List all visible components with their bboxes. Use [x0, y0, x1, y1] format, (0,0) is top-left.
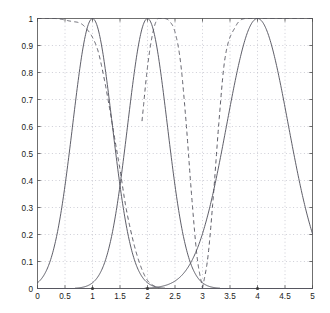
- x-axis-tick-label: 4: [255, 292, 260, 301]
- y-axis-tick-label: 0.6: [22, 123, 34, 132]
- x-axis-tick-label: 0: [35, 292, 40, 301]
- x-axis-tick-label: 3: [200, 292, 205, 301]
- x-axis-tick-label: 4.5: [279, 292, 291, 301]
- y-axis-tick-label: 0.7: [22, 96, 34, 105]
- grid-lines: [38, 19, 313, 289]
- y-axis-tick-label: 0.8: [22, 69, 34, 78]
- curve-dashed-mid-bump: [142, 19, 203, 289]
- x-axis-tick-label: 3.5: [224, 292, 236, 301]
- x-axis-tick-label: 1: [90, 292, 95, 301]
- x-axis-tick-label: 2.5: [169, 292, 181, 301]
- x-axis-tick-label: 2: [145, 292, 150, 301]
- y-axis-tick-label: 0.9: [22, 42, 34, 51]
- y-axis-tick-label: 0.3: [22, 204, 34, 213]
- data-point-marker: [91, 287, 94, 290]
- y-axis-tick-label: 0.1: [22, 258, 34, 267]
- data-point-marker: [146, 287, 149, 290]
- y-axis-tick-label: 0.5: [22, 150, 34, 159]
- y-axis-tick-label: 1: [28, 15, 33, 24]
- x-axis-tick-label: 0.5: [59, 292, 71, 301]
- tick-labels: 00.511.522.533.544.5500.10.20.30.40.50.6…: [22, 15, 316, 302]
- x-axis-tick-label: 1.5: [114, 292, 126, 301]
- chart-figure: 00.511.522.533.544.5500.10.20.30.40.50.6…: [0, 0, 330, 313]
- y-axis-tick-label: 0.4: [22, 177, 34, 186]
- x-axis-tick-label: 5: [310, 292, 315, 301]
- data-point-marker: [256, 287, 259, 290]
- plot-canvas: 00.511.522.533.544.5500.10.20.30.40.50.6…: [0, 0, 330, 313]
- y-axis-tick-label: 0.2: [22, 231, 34, 240]
- y-axis-tick-label: 0: [28, 285, 33, 294]
